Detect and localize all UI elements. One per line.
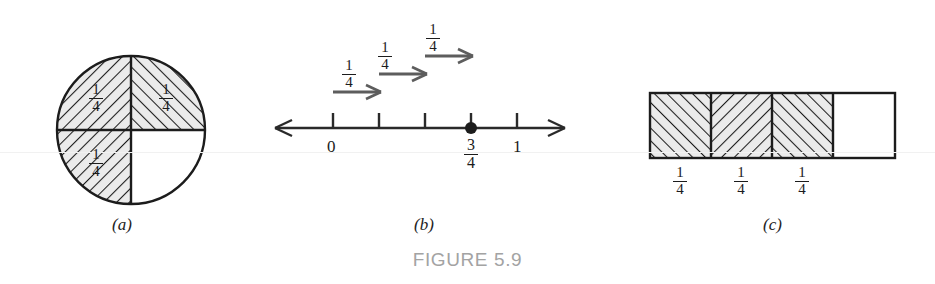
panel-a-circle-model	[57, 56, 205, 204]
rect-cell-2-fraction: 1 4	[734, 165, 748, 198]
rect-cell-3-fraction: 1 4	[795, 165, 809, 198]
circle-quadrant-top-left-fraction: 1 4	[89, 82, 103, 115]
circle-quadrant-bottom-left-fraction: 1 4	[89, 147, 103, 180]
jump-arrow-1	[333, 85, 381, 99]
rect-cell-1-fraction: 1 4	[673, 165, 687, 198]
circle-quadrant-top-right-fraction: 1 4	[159, 82, 173, 115]
number-line-point-label-three-quarters: 3 4	[464, 137, 478, 172]
rect-cell-1-fill	[650, 93, 711, 158]
jump-arrow-1-fraction: 1 4	[342, 58, 356, 91]
panel-label-b: (b)	[414, 215, 434, 235]
rect-cell-4-fill	[833, 93, 895, 158]
panel-b-number-line-model	[275, 49, 565, 136]
rect-cell-3-fill	[772, 93, 833, 158]
figure-caption: FIGURE 5.9	[0, 249, 935, 271]
number-line-point-marker	[465, 122, 477, 134]
jump-arrow-2-fraction: 1 4	[378, 40, 392, 73]
figure-5-9: 1 4 1 4 1 4 1 4 1 4 1 4 0 1 3 4 1	[0, 0, 935, 284]
jump-arrow-3-fraction: 1 4	[426, 22, 440, 55]
panel-label-a: (a)	[112, 215, 132, 235]
panel-label-c: (c)	[763, 215, 782, 235]
rect-cell-2-fill	[711, 93, 772, 158]
panel-c-rectangle-model	[650, 93, 895, 158]
